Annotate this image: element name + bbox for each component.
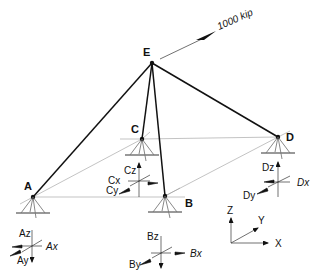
reaction-Ax: Ax	[45, 241, 59, 252]
member-ED	[152, 63, 278, 137]
member-EB	[152, 63, 165, 196]
reaction-Ay: Ay	[17, 255, 29, 266]
applied-load-arrow	[160, 31, 216, 59]
axis-label-X: X	[275, 238, 282, 249]
reaction-Cz: Cz	[124, 165, 136, 176]
reaction-Cy: Cy	[106, 185, 118, 196]
node-label-C: C	[131, 123, 139, 135]
truss-members	[33, 63, 278, 197]
pin-support-B	[148, 196, 182, 218]
reaction-Bx: Bx	[190, 248, 203, 259]
reaction-Bz: Bz	[147, 231, 159, 242]
pin-support-C	[125, 139, 159, 161]
reaction-Az: Az	[19, 228, 31, 239]
node-label-A: A	[24, 180, 32, 192]
pin-support-A	[16, 197, 50, 218]
axis-label-Y: Y	[258, 215, 265, 226]
reaction-Dz: Dz	[262, 162, 274, 173]
member-EC	[142, 63, 152, 139]
reaction-Dx: Dx	[297, 177, 310, 188]
node-label-E: E	[143, 46, 150, 58]
load-label: 1000 kip	[215, 6, 254, 32]
reaction-By-text: By	[129, 259, 141, 270]
node-label-D: D	[286, 131, 294, 143]
node-label-B: B	[185, 197, 193, 209]
space-truss-diagram: 1000 kip E A B C D Az Ax	[0, 0, 318, 277]
reaction-Dy: Dy	[243, 190, 255, 201]
axis-label-Z: Z	[227, 205, 233, 216]
